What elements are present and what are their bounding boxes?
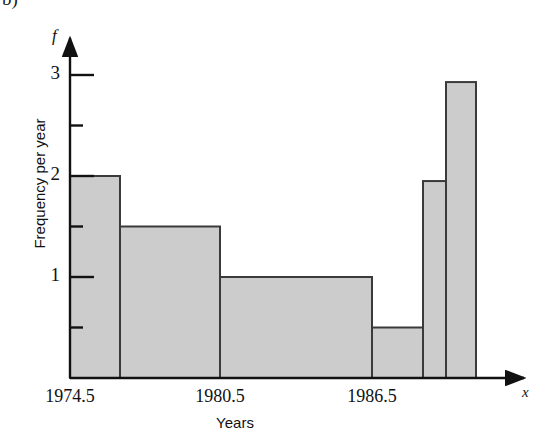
x-tick-label-1974: 1974.5 [15,386,125,407]
histogram-bar [220,277,372,378]
x-tick-label-1980: 1980.5 [165,386,275,407]
x-tick-label-1986: 1986.5 [317,386,427,407]
y-tick-label-3: 3 [38,62,60,84]
histogram-bar [446,82,476,378]
x-axis-title: Years [0,414,470,431]
y-axis-symbol: f [52,26,57,46]
histogram-bar [120,227,220,379]
histogram-bar [423,181,446,378]
bars-group [70,82,476,378]
histogram-bar [372,328,423,379]
histogram-plot [0,0,542,444]
figure-container: b) f x 1 2 3 1974.5 1980.5 1986.5 Freque… [0,0,542,444]
y-axis-title: Frequency per year [31,99,48,269]
x-axis-symbol: x [522,384,529,401]
